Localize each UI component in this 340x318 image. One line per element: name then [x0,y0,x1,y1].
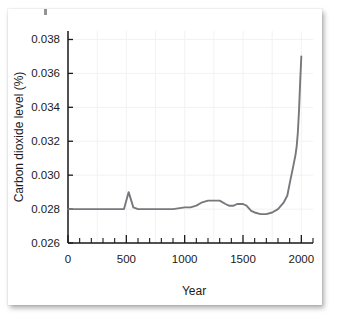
svg-text:0.038: 0.038 [31,33,60,45]
gridlines [68,31,313,243]
svg-text:1500: 1500 [230,253,256,265]
svg-text:0.028: 0.028 [31,203,60,215]
chart-card: 0.0260.0280.0300.0320.0340.0360.038 0500… [8,9,322,305]
svg-text:0.032: 0.032 [31,135,60,147]
svg-text:2000: 2000 [289,253,315,265]
svg-text:1000: 1000 [172,253,198,265]
x-axis-title: Year [182,284,206,298]
x-minor-ticks [68,235,313,243]
svg-text:0.030: 0.030 [31,169,60,181]
svg-text:0.034: 0.034 [31,101,60,113]
x-tick-labels: 0500100015002000 [65,253,314,265]
y-axis-title: Carbon dioxide level (%) [12,72,26,203]
svg-text:0.036: 0.036 [31,67,60,79]
svg-text:0.026: 0.026 [31,237,60,249]
svg-text:0: 0 [65,253,71,265]
co2-line-chart: 0.0260.0280.0300.0320.0340.0360.038 0500… [8,9,322,305]
y-tick-labels: 0.0260.0280.0300.0320.0340.0360.038 [31,33,60,249]
svg-text:500: 500 [117,253,136,265]
